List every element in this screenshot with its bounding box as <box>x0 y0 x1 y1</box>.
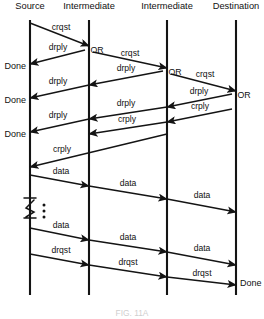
message-label-crqst-1: crqst <box>121 48 140 58</box>
message-label-crqst-0: crqst <box>52 22 71 32</box>
sequence-diagram: SourceIntermediateIntermediateDestinatio… <box>0 0 264 319</box>
done-label-right-1: Done <box>240 278 262 288</box>
message-arrow-data-17 <box>167 252 236 265</box>
message-label-drply-8: drply <box>49 110 68 120</box>
message-arrow-drply-3 <box>30 50 85 64</box>
column-header-intermediate2: Intermediate <box>141 1 193 11</box>
sequence-diagram-canvas: SourceIntermediateIntermediateDestinatio… <box>0 0 264 319</box>
done-label-left-1: Done <box>4 61 26 71</box>
message-label-data-17: data <box>194 243 211 253</box>
column-headers: SourceIntermediateIntermediateDestinatio… <box>15 1 259 11</box>
message-label-crply-11: crply <box>53 144 72 154</box>
message-label-data-12: data <box>53 166 70 176</box>
column-header-destination: Destination <box>213 1 260 11</box>
message-arrow-data-14 <box>167 199 236 212</box>
column-header-intermediate1: Intermediate <box>63 1 115 11</box>
message-label-drply-3: drply <box>49 42 68 52</box>
lifeline-break-symbol <box>24 198 46 219</box>
done-label-left-2: Done <box>4 95 26 105</box>
done-label-left-3: Done <box>4 129 26 139</box>
message-arrow-drply-4 <box>89 71 163 85</box>
or-node-2: OR <box>169 67 182 77</box>
message-arrow-crply-11 <box>30 134 167 167</box>
message-label-drply-6: drply <box>190 86 209 96</box>
message-label-drqst-20: drqst <box>192 268 212 278</box>
message-label-drply-5: drply <box>49 76 68 86</box>
message-label-data-15: data <box>53 220 70 230</box>
message-label-drqst-19: drqst <box>118 257 138 267</box>
message-label-drply-4: drply <box>117 63 136 73</box>
message-arrow-drply-8 <box>30 119 89 132</box>
ellipsis-dot-3 <box>43 216 46 219</box>
message-label-drply-7: drply <box>117 98 136 108</box>
done-labels-right: Done <box>240 278 262 288</box>
column-header-source: Source <box>15 1 44 11</box>
message-label-crply-10: crply <box>118 114 137 124</box>
figure-caption-text: FIG. 11A <box>116 308 149 318</box>
message-label-crqst-2: crqst <box>196 69 215 79</box>
message-arrow-drply-5 <box>30 85 89 98</box>
message-label-data-16: data <box>120 232 137 242</box>
message-label-drqst-18: drqst <box>51 245 71 255</box>
or-node-3: OR <box>238 90 251 100</box>
or-nodes: OROROR <box>91 45 251 100</box>
message-label-crply-9: crply <box>191 101 210 111</box>
figure-caption: FIG. 11A <box>116 308 149 318</box>
message-label-data-13: data <box>120 178 137 188</box>
ellipsis-dot-1 <box>43 204 46 207</box>
ellipsis-dot-2 <box>43 210 46 213</box>
message-arrow-drqst-20 <box>167 277 236 285</box>
message-label-data-14: data <box>194 190 211 200</box>
message-arrow-data-12 <box>30 175 89 186</box>
or-node-1: OR <box>91 45 104 55</box>
done-labels-left: DoneDoneDone <box>4 61 26 139</box>
message-arrow-drqst-18 <box>30 254 89 265</box>
